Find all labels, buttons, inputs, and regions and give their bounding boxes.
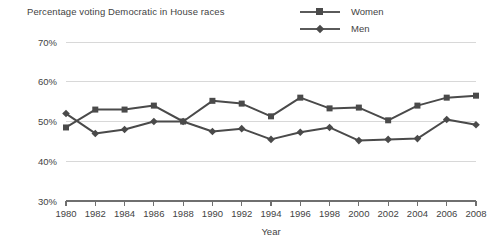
data-point-men	[355, 137, 363, 145]
data-point-women	[444, 95, 450, 101]
data-point-women	[385, 117, 391, 123]
data-point-men	[296, 128, 304, 136]
x-axis-tick-label: 1996	[290, 208, 311, 219]
x-axis-tick-label: 1980	[55, 208, 76, 219]
data-point-men	[238, 125, 246, 133]
x-axis-tick-label: 1992	[231, 208, 252, 219]
data-point-women	[356, 105, 362, 111]
x-axis-tick-label: 2008	[465, 208, 486, 219]
data-point-men	[326, 124, 334, 132]
data-point-women	[239, 101, 245, 107]
x-axis-title: Year	[261, 226, 280, 237]
x-axis-tick-label: 2002	[378, 208, 399, 219]
y-axis-tick-label: 40%	[38, 156, 58, 167]
y-axis-tick-label: 70%	[38, 37, 58, 48]
data-point-men	[472, 121, 480, 129]
data-point-men	[267, 136, 275, 144]
x-axis-tick-label: 2006	[436, 208, 457, 219]
data-point-women	[63, 124, 69, 130]
y-axis-tick-label: 60%	[38, 76, 58, 87]
data-point-men	[121, 126, 129, 134]
y-axis-tick-label: 30%	[38, 196, 58, 207]
data-point-women	[327, 105, 333, 111]
data-point-women	[122, 107, 128, 113]
x-axis-tick-label: 1998	[319, 208, 340, 219]
data-point-women	[92, 107, 98, 113]
data-point-men	[150, 118, 158, 126]
data-point-women	[209, 98, 215, 104]
x-axis-tick-label: 1982	[85, 208, 106, 219]
x-axis-tick-label: 1988	[173, 208, 194, 219]
x-axis-tick-label: 2000	[348, 208, 369, 219]
data-point-women	[268, 113, 274, 119]
x-axis-tick-label: 2004	[407, 208, 428, 219]
x-axis-tick-label: 1994	[260, 208, 281, 219]
data-point-men	[384, 136, 392, 144]
data-point-women	[151, 103, 157, 109]
data-point-men	[209, 128, 217, 136]
x-axis-tick-label: 1990	[202, 208, 223, 219]
data-point-women	[297, 95, 303, 101]
data-point-women	[473, 93, 479, 99]
data-point-women	[414, 103, 420, 109]
plot-area: 70%60%50%40%30%1980198219841986198819901…	[0, 0, 498, 246]
x-axis-tick-label: 1986	[143, 208, 164, 219]
y-axis-tick-label: 50%	[38, 116, 58, 127]
x-axis-tick-label: 1984	[114, 208, 135, 219]
chart-container: Percentage voting Democratic in House ra…	[0, 0, 498, 246]
